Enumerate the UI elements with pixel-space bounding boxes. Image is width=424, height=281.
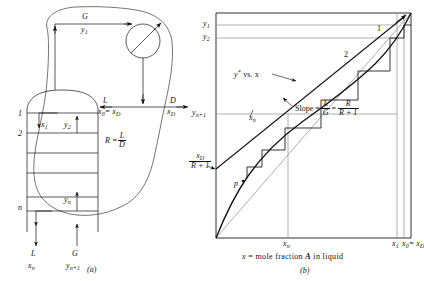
y-tick-label-y1: y1: [203, 20, 210, 29]
plate-label-n: n: [18, 204, 22, 212]
y-tick-label-yn1: yn+1: [192, 109, 206, 118]
label-yn: yn: [64, 196, 71, 205]
label-distillate-composition: xD: [167, 108, 175, 117]
x-tick-label-x1: x1: [392, 240, 399, 249]
label-y2: y2: [64, 121, 71, 130]
condenser-icon: [126, 23, 161, 58]
label-bottoms-L: L: [31, 250, 36, 258]
label-reflux-ratio: R =LD: [105, 132, 126, 150]
point-xn-label: xn: [249, 114, 256, 123]
bottom-streams: [36, 224, 77, 246]
label-boilup-G: G: [72, 250, 78, 258]
label-boilup-yn1: yn+1: [66, 262, 80, 271]
x-tick-label-xn: xn: [283, 240, 290, 249]
label-vapor-y1: y1: [81, 26, 88, 35]
label-x1: x1: [41, 121, 48, 130]
reference-lines: [216, 13, 404, 238]
curve-label-leader: [272, 74, 296, 81]
stage-number-2: 2: [344, 50, 348, 59]
point-p-label: p: [234, 180, 238, 188]
stage-number-1: 1: [377, 24, 381, 33]
plate-label-2: 2: [18, 130, 22, 138]
panel-a-caption: (a): [87, 265, 96, 274]
x-tick-label-x0: x0= xD: [402, 240, 424, 249]
vapor-line-to-condenser: [55, 24, 132, 90]
slope-label-leader: [283, 98, 292, 106]
diagonal-line: [216, 13, 411, 238]
label-reflux-composition: x0= xD: [98, 108, 120, 117]
y-intercept-label: xD R + 1: [189, 152, 211, 170]
label-distillate-D: D: [170, 97, 176, 105]
x-axis-title: x = mole fraction A in liquid: [242, 252, 343, 261]
internal-stream-arrows: [36, 113, 77, 226]
label-vapor-G: G: [82, 13, 88, 21]
plate-label-1: 1: [18, 110, 22, 118]
y-tick-label-y2: y2: [203, 33, 210, 42]
label-reflux-L: L: [103, 97, 108, 105]
point-p-marker: [242, 180, 245, 183]
panel-b-caption: (b): [300, 266, 309, 275]
equilibrium-curve-label: y* vs. x: [234, 69, 259, 79]
operating-line-slope-label: Slope = LG = RR + 1: [295, 100, 359, 118]
label-bottoms-xn: xn: [28, 262, 35, 271]
